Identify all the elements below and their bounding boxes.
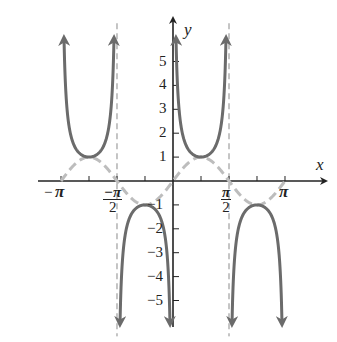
- y-tick-label: 2: [159, 125, 167, 140]
- chart-canvas: [0, 0, 337, 342]
- y-tick-label: 1: [159, 149, 167, 164]
- cosecant-branch: [176, 40, 226, 157]
- x-tick-label-minus-pi: π: [55, 184, 64, 199]
- cosecant-branch: [64, 40, 114, 157]
- cosecant-branch: [232, 205, 282, 322]
- y-axis-label: y: [184, 22, 192, 37]
- x-tick-label-pi-over-2: π2: [221, 185, 231, 215]
- y-tick-label: −2: [147, 221, 163, 236]
- y-tick-label: −3: [147, 245, 163, 260]
- x-axis-label: x: [316, 157, 324, 172]
- y-tick-label: 4: [159, 77, 167, 92]
- x-tick-label-minus-pi-over-2: −π2: [103, 185, 122, 215]
- x-tick-label-minus-pi: −: [44, 185, 52, 200]
- x-tick-label-pi: π: [279, 184, 288, 199]
- y-tick-label: −4: [147, 269, 163, 284]
- y-tick-label: 3: [159, 101, 167, 116]
- y-tick-label: 5: [159, 54, 167, 69]
- y-tick-label: −1: [147, 197, 163, 212]
- y-tick-label: −5: [147, 293, 163, 308]
